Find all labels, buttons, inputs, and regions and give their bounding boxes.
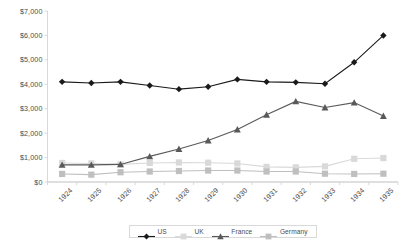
data-point-marker — [266, 234, 272, 240]
data-point-marker — [147, 160, 153, 166]
series-uk — [59, 155, 386, 170]
data-point-marker — [147, 82, 153, 88]
series-germany — [59, 167, 386, 177]
legend-item-uk[interactable]: UK — [175, 227, 204, 236]
legend-item-france[interactable]: France — [212, 227, 253, 236]
data-point-marker — [322, 171, 328, 177]
data-point-marker — [351, 156, 357, 162]
data-point-marker — [205, 167, 211, 173]
data-point-marker — [263, 79, 269, 85]
data-point-marker — [263, 111, 270, 117]
data-point-marker — [59, 79, 65, 85]
data-point-marker — [234, 76, 240, 82]
data-point-marker — [59, 171, 65, 177]
data-point-marker — [351, 99, 358, 105]
legend-label: France — [231, 228, 252, 235]
data-point-marker — [147, 168, 153, 174]
data-point-marker — [380, 171, 386, 177]
data-point-marker — [322, 163, 328, 169]
data-point-marker — [117, 169, 123, 175]
data-point-marker — [234, 160, 240, 166]
data-point-marker — [205, 84, 211, 90]
series-line — [62, 158, 383, 167]
line-chart: $0$1,000$2,000$3,000$4,000$5,000$6,000$7… — [0, 0, 405, 245]
data-point-marker — [234, 126, 241, 132]
legend-marker-triangle-icon — [212, 227, 229, 236]
axis-lines — [48, 11, 399, 182]
data-point-marker — [205, 137, 212, 143]
data-point-marker — [176, 86, 182, 92]
legend-marker-diamond-icon — [138, 227, 155, 236]
data-point-marker — [380, 155, 386, 161]
data-point-marker — [117, 79, 123, 85]
data-point-marker — [180, 234, 186, 240]
data-point-marker — [234, 167, 240, 173]
series-line — [62, 35, 383, 89]
series-line — [62, 101, 383, 165]
data-point-marker — [205, 160, 211, 166]
chart-legend: USUKFranceGermany — [129, 225, 317, 238]
axis-tick-marks — [45, 11, 399, 185]
series-line — [62, 171, 383, 175]
legend-marker-square-icon — [260, 227, 277, 236]
data-point-marker — [176, 168, 182, 174]
series-france — [59, 98, 387, 168]
data-point-marker — [88, 172, 94, 178]
legend-label: UK — [194, 228, 203, 235]
data-point-marker — [144, 234, 150, 240]
legend-label: Germany — [280, 228, 308, 235]
data-series-layer — [59, 32, 387, 178]
legend-marker-square-icon — [175, 227, 192, 236]
data-point-marker — [88, 80, 94, 86]
data-point-marker — [176, 159, 182, 165]
legend-item-germany[interactable]: Germany — [260, 227, 307, 236]
series-us — [59, 32, 387, 92]
plot-area — [0, 0, 405, 245]
data-point-marker — [293, 168, 299, 174]
data-point-marker — [351, 171, 357, 177]
data-point-marker — [293, 79, 299, 85]
data-point-marker — [263, 168, 269, 174]
legend-item-us[interactable]: US — [138, 227, 167, 236]
legend-label: US — [158, 228, 167, 235]
data-point-marker — [292, 98, 299, 104]
data-point-marker — [380, 113, 387, 119]
